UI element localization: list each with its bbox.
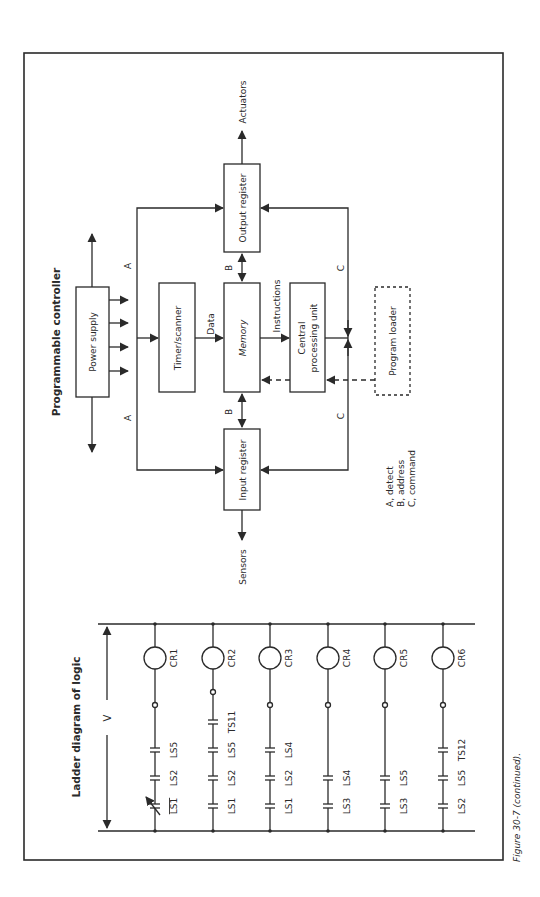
normally-closed-slash-icon xyxy=(146,797,160,815)
rung-cr1 xyxy=(144,624,166,831)
bus-a-label-top: A xyxy=(123,262,133,269)
coil-cr1 xyxy=(144,647,166,669)
legend-c: C, command xyxy=(407,450,417,507)
contact-label: LS2 xyxy=(227,770,237,786)
legend-b: B, address xyxy=(396,459,406,507)
bus-b-label-top: B xyxy=(224,265,234,271)
figure-canvas: Programmable controller Power supply Tim… xyxy=(0,0,540,897)
voltage-label: V xyxy=(102,714,113,721)
memory-label: Memory xyxy=(238,319,248,356)
power-supply-label: Power supply xyxy=(88,311,98,371)
data-label: Data xyxy=(206,313,216,335)
bus-c-label-top: C xyxy=(336,265,346,271)
bus-c-label-bottom: C xyxy=(336,413,346,419)
instructions-label: Instructions xyxy=(272,279,282,332)
coil-label: CR5 xyxy=(399,649,409,667)
rung-cr4 xyxy=(317,624,339,831)
contact-label: LS1 xyxy=(227,798,237,814)
figure-caption: Figure 30-7 (continued). xyxy=(512,753,522,862)
contact-label: LS3 xyxy=(342,798,352,814)
contact-label: TS11 xyxy=(227,711,237,735)
ladder-title: Ladder diagram of logic xyxy=(70,657,82,798)
coil-label: CR2 xyxy=(227,649,237,667)
contact-label: LS1 xyxy=(284,798,294,814)
contact-label: LS2 xyxy=(284,770,294,786)
coil-label: CR6 xyxy=(457,649,467,668)
contact-label: LS2 xyxy=(457,798,467,814)
contact-label: LS2 xyxy=(169,770,179,786)
actuators-label: Actuators xyxy=(238,80,248,123)
contact-label: LS4 xyxy=(342,769,352,786)
contact-label: LS3 xyxy=(399,798,409,814)
sensors-label: Sensors xyxy=(238,549,248,585)
rung-cr6 xyxy=(432,624,454,831)
legend-a: A, detect xyxy=(385,466,395,507)
contact-label: LS5 xyxy=(399,770,409,786)
rung-cr3 xyxy=(259,624,281,831)
coil-label: CR3 xyxy=(284,649,294,667)
contact-label: LS5 xyxy=(227,742,237,758)
timer-scanner-label: Timer/scanner xyxy=(173,305,183,371)
contact-label: LS1 xyxy=(169,798,179,814)
coil-label: CR1 xyxy=(169,649,179,667)
contact-label: LS4 xyxy=(284,741,294,758)
rung-cr2 xyxy=(202,624,224,831)
cpu-block xyxy=(290,283,325,392)
output-register-label: Output register xyxy=(238,173,248,242)
coil-cr2 xyxy=(202,647,224,669)
cpu-label-line2: processing unit xyxy=(309,303,319,372)
figure-frame xyxy=(24,53,503,860)
contact-label: TS12 xyxy=(457,739,467,763)
rung-cr5 xyxy=(374,624,396,831)
coil-cr6 xyxy=(432,647,454,669)
bus-a-label-bottom: A xyxy=(123,414,133,421)
input-register-label: Input register xyxy=(238,439,248,500)
coil-cr4 xyxy=(317,647,339,669)
program-loader-label: Program loader xyxy=(388,306,398,376)
coil-cr3 xyxy=(259,647,281,669)
contact-label: LS5 xyxy=(169,742,179,758)
bus-b-label-bottom: B xyxy=(224,409,234,415)
cpu-label-line1: Central xyxy=(297,322,307,355)
coil-label: CR4 xyxy=(342,649,352,668)
coil-cr5 xyxy=(374,647,396,669)
contact-label: LS5 xyxy=(457,770,467,786)
controller-title: Programmable controller xyxy=(50,267,62,416)
